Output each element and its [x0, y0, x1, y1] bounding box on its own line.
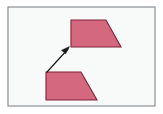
diagram-canvas — [0, 0, 163, 114]
figure-container — [0, 0, 163, 114]
